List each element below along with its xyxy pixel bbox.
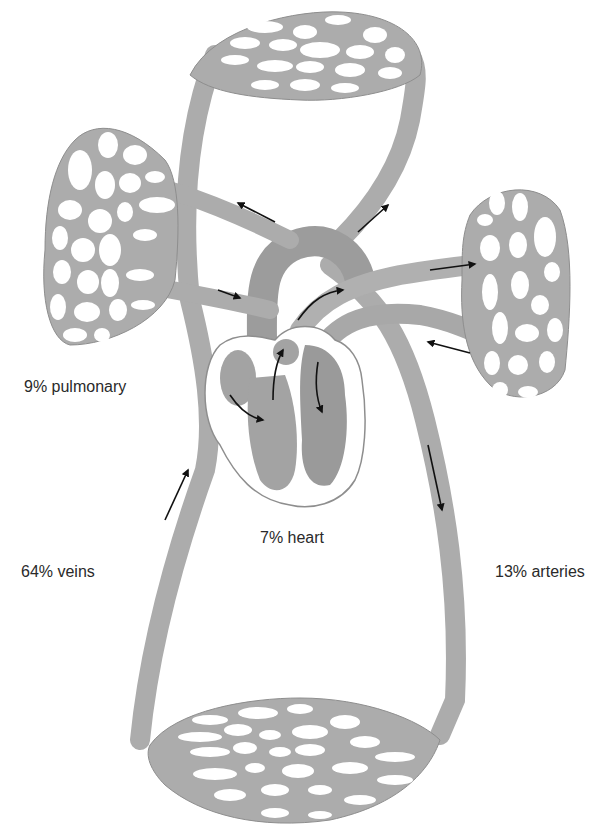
capillary-bed-right-lung — [462, 190, 570, 398]
circulation-diagram: 9% pulmonary 7% heart 64% veins 13% arte… — [0, 0, 611, 839]
diagram-canvas — [0, 0, 611, 839]
arrow-right-lung-in — [428, 342, 470, 353]
artery-right-main — [330, 265, 456, 735]
label-arteries: 13% arteries — [495, 563, 585, 581]
capillary-bed-left-lung — [44, 128, 178, 345]
capillary-bed-bottom — [148, 698, 440, 823]
heart — [205, 327, 365, 507]
label-pulmonary: 9% pulmonary — [24, 378, 126, 396]
label-veins: 64% veins — [21, 563, 95, 581]
left-atrium — [273, 339, 299, 365]
capillary-bed-top — [190, 12, 422, 100]
label-heart: 7% heart — [260, 529, 324, 547]
